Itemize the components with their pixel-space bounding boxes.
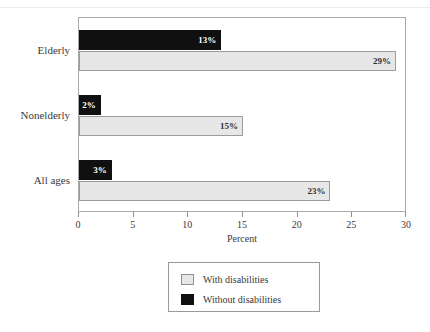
x-axis-title: Percent: [78, 233, 406, 244]
legend-swatch-with: [181, 274, 194, 285]
x-tick: [242, 212, 243, 217]
category-axis-labels: ElderlyNonelderlyAll ages: [0, 17, 74, 212]
x-tick: [405, 212, 406, 217]
x-tick: [187, 212, 188, 217]
bar-value-label: 3%: [93, 166, 111, 175]
category-label-all-ages: All ages: [34, 174, 70, 186]
category-label-elderly: Elderly: [38, 44, 70, 56]
legend-label: Without disabilities: [203, 294, 281, 305]
x-tick: [133, 212, 134, 217]
bar-all-ages-without-disabilities: 3%: [79, 160, 112, 180]
bar-all-ages-with-disabilities: 23%: [79, 181, 330, 201]
x-tick-label: 25: [346, 219, 356, 230]
x-tick: [351, 212, 352, 217]
legend-item-with: With disabilities: [181, 274, 268, 285]
x-tick: [78, 212, 79, 217]
x-tick-label: 10: [182, 219, 192, 230]
category-label-nonelderly: Nonelderly: [21, 109, 70, 121]
x-tick-label: 5: [130, 219, 135, 230]
x-tick: [297, 212, 298, 217]
bar-nonelderly-without-disabilities: 2%: [79, 95, 101, 115]
bar-nonelderly-with-disabilities: 15%: [79, 116, 243, 136]
legend-item-without: Without disabilities: [181, 294, 281, 305]
legend-label: With disabilities: [203, 274, 268, 285]
bar-elderly-without-disabilities: 13%: [79, 30, 221, 50]
bar-value-label: 29%: [373, 57, 395, 66]
x-tick-label: 30: [401, 219, 411, 230]
bar-chart-figure: ElderlyNonelderlyAll ages 13%29%2%15%3%2…: [0, 0, 430, 332]
x-tick-label: 0: [76, 219, 81, 230]
bar-value-label: 13%: [198, 36, 220, 45]
x-tick-label: 20: [292, 219, 302, 230]
bar-value-label: 2%: [82, 101, 100, 110]
legend-swatch-without: [181, 294, 194, 305]
x-tick-label: 15: [237, 219, 247, 230]
plot-area: 13%29%2%15%3%23%: [79, 18, 405, 211]
bar-value-label: 15%: [220, 122, 242, 131]
bar-value-label: 23%: [307, 187, 329, 196]
bar-elderly-with-disabilities: 29%: [79, 51, 396, 71]
plot-frame: 13%29%2%15%3%23%: [78, 17, 406, 212]
chart-legend: With disabilitiesWithout disabilities: [168, 262, 320, 312]
